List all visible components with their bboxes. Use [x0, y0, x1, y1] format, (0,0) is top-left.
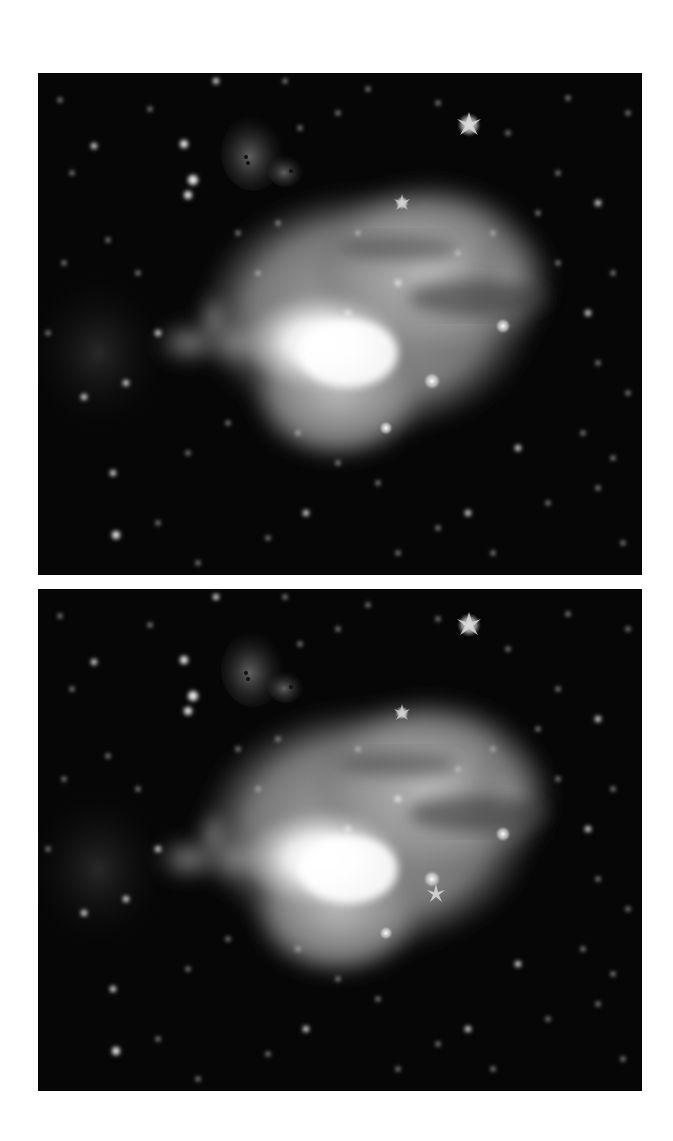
nebula-illustration-top [38, 73, 642, 575]
image-bottom: Grayscale astronomical image of the same… [38, 589, 642, 1091]
image-top: Grayscale astronomical image of a bright… [38, 73, 642, 575]
nebula-illustration-bottom [38, 589, 642, 1091]
